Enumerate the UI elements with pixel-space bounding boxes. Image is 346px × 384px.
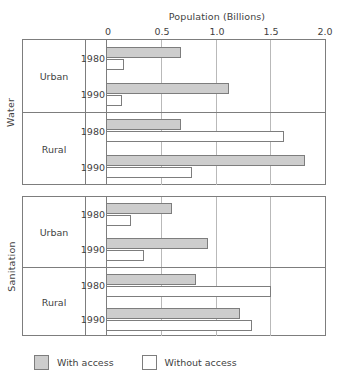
chart-legend: With access Without access xyxy=(34,355,237,370)
bar-water-urban-1990-with-access xyxy=(107,83,229,94)
group-label-water-rural: Rural xyxy=(23,113,86,185)
bars-sanitation-urban xyxy=(107,197,325,267)
bars-sanitation-rural xyxy=(107,268,325,336)
bar-sanitation-urban-1990-without-access xyxy=(107,250,144,261)
bar-sanitation-rural-1990-with-access xyxy=(107,308,240,319)
group-water-rural: Rural 1980 1990 xyxy=(23,112,325,185)
x-tick-1-5: 1.5 xyxy=(263,26,278,37)
bar-water-rural-1990-with-access xyxy=(107,155,305,166)
x-tick-1-0: 1.0 xyxy=(209,26,224,37)
group-water-urban: Urban 1980 1990 xyxy=(23,40,325,112)
legend-label-without-access: Without access xyxy=(165,357,237,368)
year-label-water-rural-1980: 1980 xyxy=(86,113,106,149)
year-label-sanitation-urban-1990: 1990 xyxy=(86,232,106,267)
bar-group-sanitation-urban-1980 xyxy=(107,197,325,232)
x-tick-0-5: 0.5 xyxy=(154,26,169,37)
clipped-header-strip xyxy=(0,0,346,5)
group-label-sanitation-urban: Urban xyxy=(23,197,86,267)
section-label-sanitation: Sanitation xyxy=(0,196,22,336)
bar-group-water-urban-1980 xyxy=(107,40,325,76)
legend-item-without-access: Without access xyxy=(142,355,237,370)
panel-water: Urban 1980 1990 xyxy=(22,39,326,185)
year-column-sanitation-urban: 1980 1990 xyxy=(86,197,107,267)
group-sanitation-rural: Rural 1980 1990 xyxy=(23,267,325,336)
bar-sanitation-urban-1990-with-access xyxy=(107,238,208,249)
bar-water-rural-1980-with-access xyxy=(107,119,181,130)
bar-sanitation-rural-1980-with-access xyxy=(107,274,196,285)
bar-group-water-rural-1980 xyxy=(107,113,325,148)
section-label-water: Water xyxy=(0,39,22,185)
year-column-water-rural: 1980 1990 xyxy=(86,113,107,185)
group-label-water-urban: Urban xyxy=(23,40,86,112)
year-label-water-rural-1990: 1990 xyxy=(86,149,106,185)
bar-group-water-urban-1990 xyxy=(107,76,325,112)
legend-swatch-with-access xyxy=(34,355,49,370)
year-label-sanitation-urban-1980: 1980 xyxy=(86,197,106,232)
bar-water-urban-1980-without-access xyxy=(107,59,124,70)
bar-sanitation-rural-1990-without-access xyxy=(107,320,252,331)
year-label-water-urban-1990: 1990 xyxy=(86,76,106,112)
x-tick-0: 0 xyxy=(105,26,111,37)
x-axis-tick-labels: 0 0.5 1.0 1.5 2.0 xyxy=(0,26,346,38)
x-axis-title: Population (Billions) xyxy=(108,11,326,22)
legend-swatch-without-access xyxy=(142,355,157,370)
bar-sanitation-urban-1980-without-access xyxy=(107,215,131,226)
year-label-sanitation-rural-1980: 1980 xyxy=(86,268,106,302)
bar-group-water-rural-1990 xyxy=(107,148,325,184)
bars-water-rural xyxy=(107,113,325,185)
year-column-water-urban: 1980 1990 xyxy=(86,40,107,112)
bar-group-sanitation-rural-1990 xyxy=(107,302,325,336)
bar-water-urban-1990-without-access xyxy=(107,95,122,106)
bar-group-sanitation-urban-1990 xyxy=(107,232,325,267)
bar-sanitation-urban-1980-with-access xyxy=(107,203,172,214)
year-label-sanitation-rural-1990: 1990 xyxy=(86,302,106,336)
bar-water-rural-1980-without-access xyxy=(107,131,284,142)
section-label-water-text: Water xyxy=(6,97,17,126)
bar-sanitation-rural-1980-without-access xyxy=(107,286,271,297)
x-tick-2-0: 2.0 xyxy=(317,26,332,37)
group-label-sanitation-rural: Rural xyxy=(23,268,86,336)
bar-water-urban-1980-with-access xyxy=(107,47,181,58)
legend-item-with-access: With access xyxy=(34,355,114,370)
year-column-sanitation-rural: 1980 1990 xyxy=(86,268,107,336)
bar-group-sanitation-rural-1980 xyxy=(107,268,325,302)
legend-label-with-access: With access xyxy=(57,357,114,368)
bars-water-urban xyxy=(107,40,325,112)
bar-water-rural-1990-without-access xyxy=(107,167,192,178)
group-sanitation-urban: Urban 1980 1990 xyxy=(23,197,325,267)
section-label-sanitation-text: Sanitation xyxy=(6,241,17,291)
panel-sanitation: Urban 1980 1990 xyxy=(22,196,326,336)
year-label-water-urban-1980: 1980 xyxy=(86,40,106,76)
